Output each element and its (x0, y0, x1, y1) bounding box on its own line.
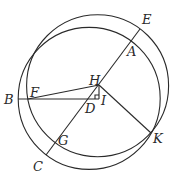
label-k: K (152, 131, 164, 146)
label-h: H (88, 73, 101, 88)
label-i: I (100, 93, 107, 108)
label-b: B (3, 92, 14, 107)
label-c: C (33, 159, 43, 174)
circle-back (18, 27, 160, 169)
label-a: A (126, 44, 136, 59)
right-angle-mark (95, 95, 99, 99)
segment-hk (99, 85, 151, 133)
label-g: G (58, 133, 68, 148)
label-d: D (84, 101, 96, 116)
geometry-diagram: E A H B F D I G K C (0, 0, 178, 182)
label-e: E (141, 12, 152, 27)
label-f: F (29, 85, 40, 100)
